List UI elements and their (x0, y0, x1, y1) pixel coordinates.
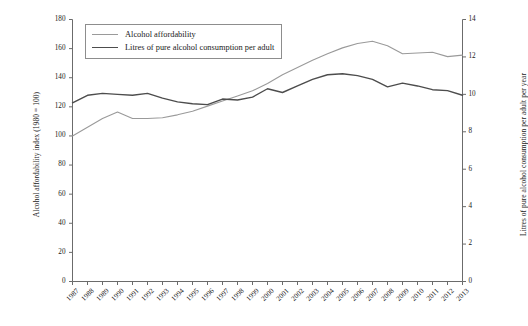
legend-swatch-line-icon (92, 34, 118, 35)
y-axis-left-tick-label: 20 (40, 248, 66, 256)
y-axis-right-tick-label: 2 (469, 239, 489, 247)
y-axis-left-tick-label: 60 (40, 190, 66, 198)
legend-label: Litres of pure alcohol consumption per a… (125, 43, 274, 52)
y-axis-right-tick-label: 10 (469, 90, 489, 98)
y-axis-left-tick-label: 0 (40, 277, 66, 285)
y-axis-right-tick-label: 14 (469, 15, 489, 23)
legend-item[interactable]: Litres of pure alcohol consumption per a… (92, 41, 274, 54)
y-axis-right-tick-label: 8 (469, 127, 489, 135)
y-axis-left-tick-label: 120 (40, 102, 66, 110)
y-axis-left-tick-label: 100 (40, 131, 66, 139)
y-axis-left-tick-label: 180 (40, 15, 66, 23)
y-axis-right-tick-label: 0 (469, 277, 489, 285)
y-axis-right-tick-label: 4 (469, 202, 489, 210)
chart-legend: Alcohol affordabilityLitres of pure alco… (85, 24, 282, 59)
y-axis-right-tick-label: 12 (469, 52, 489, 60)
legend-label: Alcohol affordability (125, 30, 196, 39)
y-axis-left-tick-label: 40 (40, 219, 66, 227)
y-axis-left-tick-label: 140 (40, 73, 66, 81)
legend-swatch-line-icon (92, 47, 118, 48)
y-axis-right-tick-label: 6 (469, 165, 489, 173)
y-axis-left-tick-label: 160 (40, 44, 66, 52)
y-axis-left-tick-label: 80 (40, 160, 66, 168)
series-line-2 (73, 74, 463, 105)
legend-item[interactable]: Alcohol affordability (92, 28, 274, 41)
